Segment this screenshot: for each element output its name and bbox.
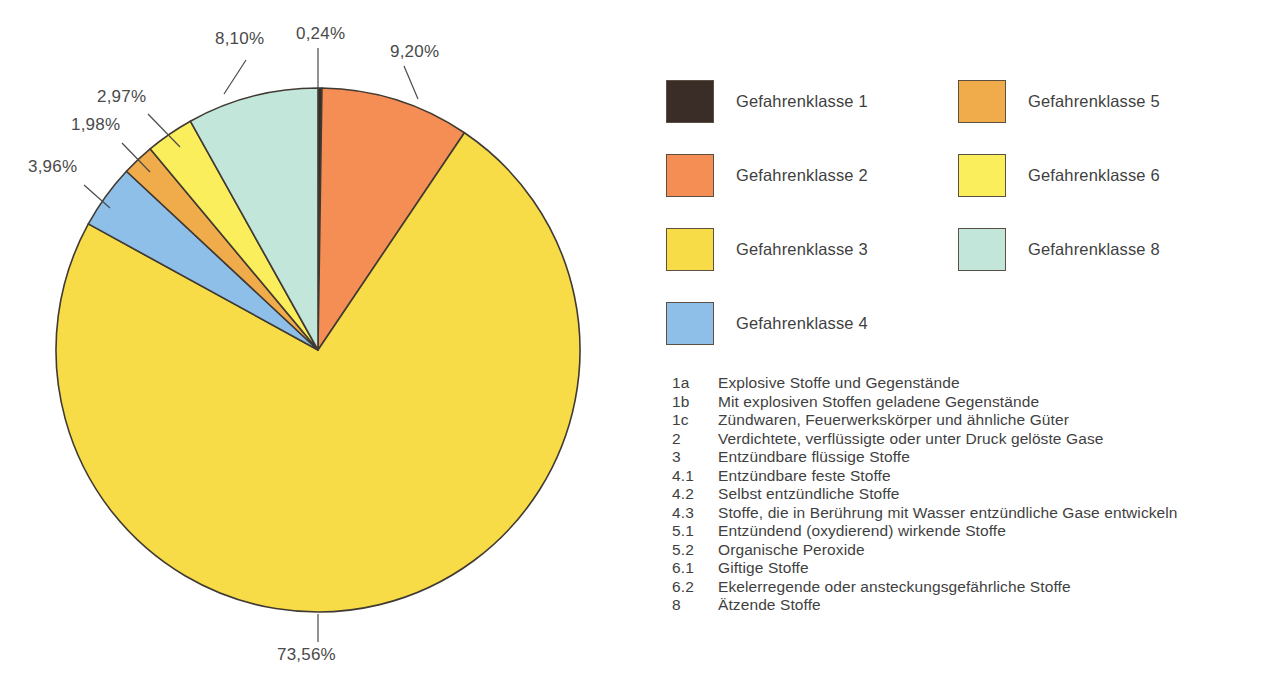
key-list-description: Mit explosiven Stoffen geladene Gegenstä… <box>718 393 1039 412</box>
key-list-row: 5.2Organische Peroxide <box>672 541 1272 560</box>
key-list-description: Zündwaren, Feuerwerkskörper und ähnliche… <box>718 411 1069 430</box>
legend-color-swatch <box>958 228 1006 271</box>
key-list-row: 8Ätzende Stoffe <box>672 596 1272 615</box>
pie-percentage-label: 0,24% <box>296 24 345 44</box>
key-list-description: Selbst entzündliche Stoffe <box>718 485 900 504</box>
key-list-code: 6.2 <box>672 578 718 597</box>
pie-percentage-label: 9,20% <box>390 42 439 62</box>
key-list-description: Giftige Stoffe <box>718 559 809 578</box>
legend-item-label: Gefahrenklasse 2 <box>736 166 868 185</box>
legend-item-label: Gefahrenklasse 3 <box>736 240 868 259</box>
legend-color-swatch <box>666 302 714 345</box>
key-list-row: 3Entzündbare flüssige Stoffe <box>672 448 1272 467</box>
legend-item-label: Gefahrenklasse 1 <box>736 92 868 111</box>
pie-percentage-label: 3,96% <box>28 157 77 177</box>
key-list-code: 1a <box>672 374 718 393</box>
key-list-row: 4.3Stoffe, die in Berührung mit Wasser e… <box>672 504 1272 523</box>
key-list-description: Organische Peroxide <box>718 541 865 560</box>
legend-color-swatch <box>666 154 714 197</box>
legend-item-label: Gefahrenklasse 6 <box>1028 166 1160 185</box>
key-list-code: 6.1 <box>672 559 718 578</box>
key-list-row: 6.1Giftige Stoffe <box>672 559 1272 578</box>
pie-percentage-label: 8,10% <box>215 29 264 49</box>
key-list-row: 1cZündwaren, Feuerwerkskörper und ähnlic… <box>672 411 1272 430</box>
key-list-description: Explosive Stoffe und Gegenstände <box>718 374 960 393</box>
key-list-code: 1b <box>672 393 718 412</box>
key-list-row: 6.2Ekelerregende oder ansteckungsgefährl… <box>672 578 1272 597</box>
hazard-class-key-list: 1aExplosive Stoffe und Gegenstände1bMit … <box>672 374 1272 615</box>
key-list-code: 3 <box>672 448 718 467</box>
legend-color-swatch <box>666 228 714 271</box>
key-list-code: 4.3 <box>672 504 718 523</box>
key-list-code: 5.1 <box>672 522 718 541</box>
key-list-code: 5.2 <box>672 541 718 560</box>
leader-line-810 <box>224 60 246 94</box>
key-list-row: 1aExplosive Stoffe und Gegenstände <box>672 374 1272 393</box>
key-list-description: Verdichtete, verflüssigte oder unter Dru… <box>718 430 1103 449</box>
pie-chart-svg <box>0 0 640 692</box>
key-list-code: 8 <box>672 596 718 615</box>
key-list-description: Ätzende Stoffe <box>718 596 821 615</box>
key-list-row: 4.2Selbst entzündliche Stoffe <box>672 485 1272 504</box>
legend-color-swatch <box>958 154 1006 197</box>
legend-item-label: Gefahrenklasse 4 <box>736 314 868 333</box>
key-list-code: 4.1 <box>672 467 718 486</box>
key-list-description: Entzündbare flüssige Stoffe <box>718 448 910 467</box>
pie-chart-area: 0,24%9,20%8,10%2,97%1,98%3,96%73,56% <box>0 0 640 692</box>
key-list-description: Ekelerregende oder ansteckungsgefährlich… <box>718 578 1071 597</box>
pie-percentage-label: 1,98% <box>71 115 120 135</box>
legend-color-swatch <box>666 80 714 123</box>
key-list-row: 4.1Entzündbare feste Stoffe <box>672 467 1272 486</box>
key-list-row: 2Verdichtete, verflüssigte oder unter Dr… <box>672 430 1272 449</box>
pie-percentage-label: 2,97% <box>97 87 146 107</box>
pie-chart-figure: 0,24%9,20%8,10%2,97%1,98%3,96%73,56% Gef… <box>0 0 1279 692</box>
key-list-row: 5.1Entzündend (oxydierend) wirkende Stof… <box>672 522 1272 541</box>
key-list-description: Entzündbare feste Stoffe <box>718 467 891 486</box>
legend-item-label: Gefahrenklasse 8 <box>1028 240 1160 259</box>
legend: Gefahrenklasse 1Gefahrenklasse 2Gefahren… <box>666 72 1246 302</box>
leader-line-920 <box>404 66 418 99</box>
pie-slice-group <box>56 88 580 612</box>
legend-item-label: Gefahrenklasse 5 <box>1028 92 1160 111</box>
key-list-description: Stoffe, die in Berührung mit Wasser entz… <box>718 504 1178 523</box>
key-list-row: 1bMit explosiven Stoffen geladene Gegens… <box>672 393 1272 412</box>
key-list-code: 1c <box>672 411 718 430</box>
pie-percentage-label: 73,56% <box>277 645 336 665</box>
key-list-description: Entzündend (oxydierend) wirkende Stoffe <box>718 522 1006 541</box>
legend-color-swatch <box>958 80 1006 123</box>
key-list-code: 4.2 <box>672 485 718 504</box>
key-list-code: 2 <box>672 430 718 449</box>
